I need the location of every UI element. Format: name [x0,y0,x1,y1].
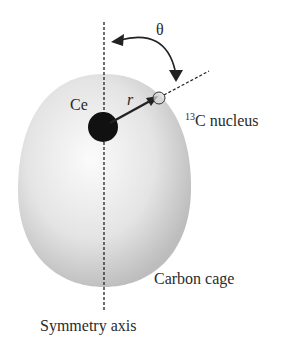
arc-arrowhead-down-icon [169,70,183,82]
theta-angle-arc [111,34,183,82]
c13-nucleus [153,92,165,104]
diagram-canvas [0,0,295,355]
ce-label: Ce [70,97,88,113]
ce-atom [88,112,118,142]
arc-arrowhead-left-icon [111,34,124,46]
nucleus-mass-number: 13 [185,111,195,122]
radius-label: r [127,92,133,108]
symmetry-axis-label: Symmetry axis [40,318,136,334]
theta-label: θ [156,22,164,38]
carbon-cage [18,74,191,287]
nucleus-label: 13C nucleus [185,112,259,129]
nucleus-direction-line [164,71,209,95]
nucleus-text: C nucleus [195,112,259,129]
carbon-cage-label: Carbon cage [154,271,234,287]
